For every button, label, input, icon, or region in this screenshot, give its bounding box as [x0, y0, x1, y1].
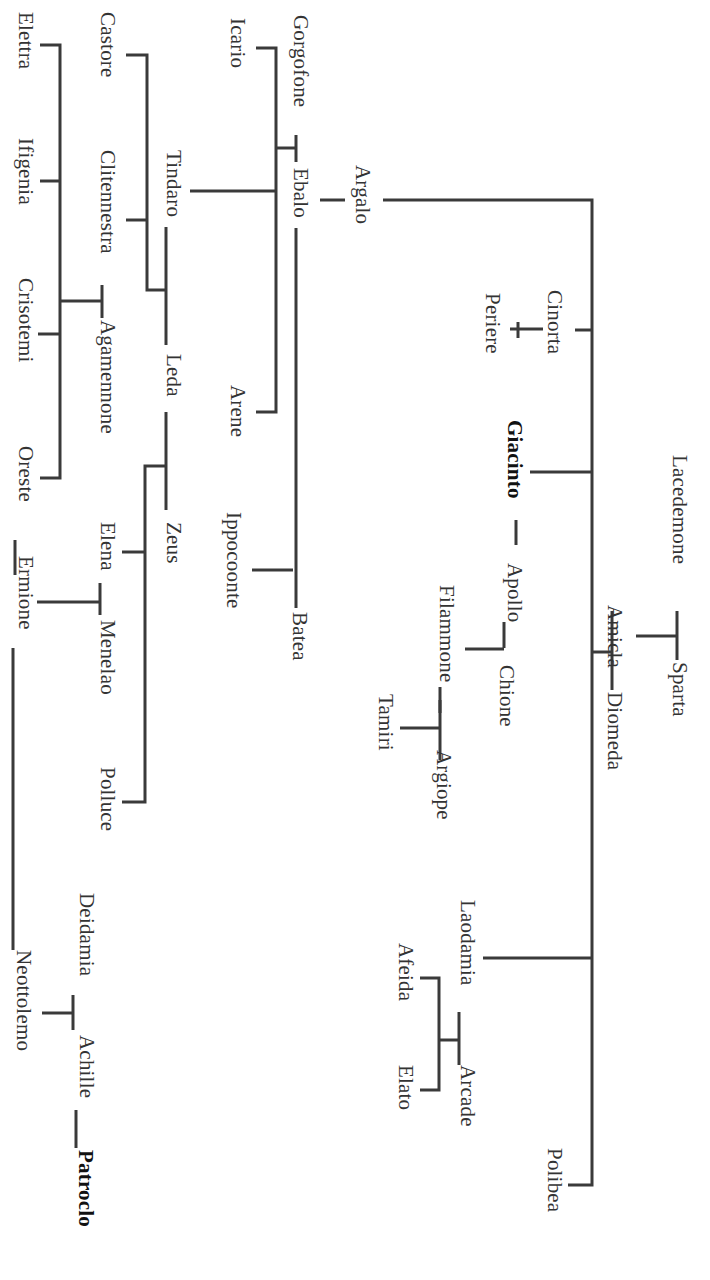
person-gorgofone: Gorgofone [289, 15, 313, 107]
person-crisotemi: Crisotemi [14, 278, 38, 363]
person-elena: Elena [96, 522, 120, 571]
person-cinorta: Cinorta [543, 290, 567, 354]
person-giacinto: Giacinto [503, 420, 527, 499]
person-patroclo: Patroclo [74, 1150, 98, 1227]
person-apollo: Apollo [503, 563, 527, 623]
person-tamiri: Tamiri [374, 694, 398, 751]
person-arcade: Arcade [456, 1065, 480, 1127]
person-sparta: Sparta [668, 662, 692, 717]
person-castore: Castore [96, 12, 120, 78]
person-batea: Batea [288, 612, 312, 661]
person-arene: Arene [226, 385, 250, 437]
person-oreste: Oreste [14, 446, 38, 502]
family-tree-diagram: Lacedemone Sparta Amicla Diomeda Argalo … [0, 0, 710, 1280]
person-polibea: Polibea [543, 1148, 567, 1212]
person-zeus: Zeus [162, 522, 186, 564]
person-menelao: Menelao [96, 620, 120, 695]
person-argalo: Argalo [351, 165, 375, 224]
person-polluce: Polluce [96, 767, 120, 831]
person-elettra: Elettra [14, 12, 38, 69]
person-ermione: Ermione [14, 556, 38, 630]
person-filammone: Filammone [435, 585, 459, 682]
person-clitennestra: Clitennestra [96, 150, 120, 254]
person-chione: Chione [495, 665, 519, 727]
person-agamennone: Agamennone [96, 320, 120, 434]
person-diomeda: Diomeda [603, 692, 627, 770]
person-ifigenia: Ifigenia [14, 138, 38, 205]
person-lacedemone: Lacedemone [668, 455, 692, 564]
person-neottolemo: Neottolemo [12, 950, 36, 1051]
person-icario: Icario [226, 18, 250, 68]
person-amicla: Amicla [603, 605, 627, 668]
person-periere: Periere [481, 293, 505, 354]
person-deidamia: Deidamia [75, 893, 99, 976]
person-ippocoonte: Ippocoonte [222, 512, 246, 608]
person-tindaro: Tindaro [162, 150, 186, 217]
person-ebalo: Ebalo [289, 168, 313, 218]
person-elato: Elato [394, 1065, 418, 1110]
person-afeida: Afeida [394, 943, 418, 1001]
person-argiope: Argiope [432, 750, 456, 820]
person-laodamia: Laodamia [456, 900, 480, 986]
person-achille: Achille [75, 1035, 99, 1098]
person-leda: Leda [162, 354, 186, 397]
